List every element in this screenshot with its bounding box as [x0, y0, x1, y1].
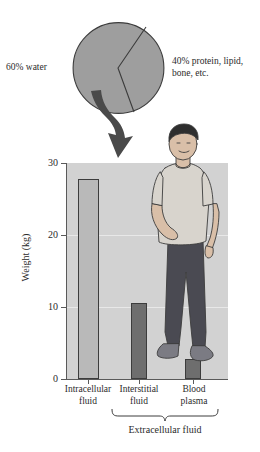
- bar-intracellular-fluid: [78, 179, 99, 379]
- shoe-right: [190, 346, 213, 361]
- hand-right: [205, 246, 213, 258]
- extracellular-fluid-label: Extracellular fluid: [100, 424, 230, 435]
- sleeve-right: [202, 172, 213, 206]
- arrow-shape: [91, 90, 133, 158]
- extracellular-fluid-brace: [110, 408, 220, 422]
- y-axis-title: Weight (kg): [20, 219, 31, 297]
- sleeve-left: [152, 172, 163, 206]
- figure-body-fluid-compartments: 60% water 40% protein, lipid, bone, etc.…: [0, 0, 260, 452]
- curved-down-arrow-icon: [88, 88, 144, 160]
- y-tick-label-20: 20: [36, 230, 58, 240]
- arrow-svg: [88, 88, 144, 160]
- bar-interstitial-fluid: [131, 303, 147, 379]
- y-tick-label-30: 30: [36, 158, 58, 168]
- y-tick-label-10: 10: [36, 302, 58, 312]
- brace-svg: [110, 408, 220, 422]
- y-tick-20: [61, 235, 67, 236]
- x-tick-label-blood-plasma: Blood plasma: [166, 384, 222, 407]
- pie-label-water: 60% water: [6, 62, 70, 74]
- shoe-left: [157, 344, 179, 358]
- y-axis-line: [66, 163, 67, 380]
- brace-path: [112, 409, 218, 421]
- standing-person-illustration: [146, 122, 228, 368]
- x-axis-line: [66, 379, 228, 380]
- pants: [165, 240, 206, 348]
- y-tick-10: [61, 307, 67, 308]
- x-tick-label-interstitial: Interstitial fluid: [106, 384, 172, 407]
- y-tick-0: [61, 379, 67, 380]
- pie-label-solids: 40% protein, lipid, bone, etc.: [172, 56, 258, 79]
- person-svg: [146, 122, 228, 368]
- y-tick-label-0: 0: [36, 374, 58, 384]
- y-tick-30: [61, 163, 67, 164]
